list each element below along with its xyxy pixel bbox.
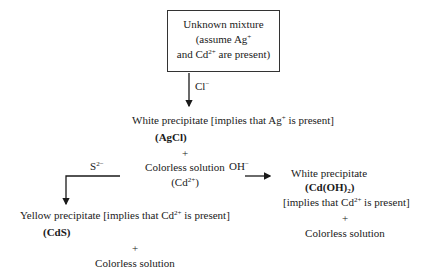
colorless-solution-right: Colorless solution bbox=[295, 227, 395, 239]
formula-cds: (CdS) bbox=[43, 226, 71, 238]
white-precipitate-agcl: White precipitate [implies that Ag+ is p… bbox=[132, 114, 334, 126]
colorless-solution-left: Colorless solution bbox=[85, 257, 185, 269]
colorless-solution-cd: Colorless solution bbox=[125, 161, 245, 173]
reagent-sulfide: S2− bbox=[90, 160, 104, 172]
yellow-precipitate-cds: Yellow precipitate [implies that Cd2+ is… bbox=[20, 209, 230, 221]
white-precipitate-cdoh2: White precipitate bbox=[291, 167, 367, 179]
formula-cdoh2: (Cd(OH)2) bbox=[305, 181, 354, 193]
plus-1: + bbox=[130, 147, 240, 159]
arrow-s bbox=[66, 176, 120, 204]
reagent-hydroxide: OH− bbox=[229, 160, 249, 172]
plus-right: + bbox=[330, 212, 360, 224]
implies-cd-right: [implies that Cd2+ is present] bbox=[283, 196, 410, 208]
formula-agcl: (AgCl) bbox=[155, 131, 187, 143]
cd-ion: (Cd2+) bbox=[125, 176, 245, 188]
reagent-chloride: Cl− bbox=[195, 80, 209, 92]
plus-left: + bbox=[90, 242, 180, 254]
